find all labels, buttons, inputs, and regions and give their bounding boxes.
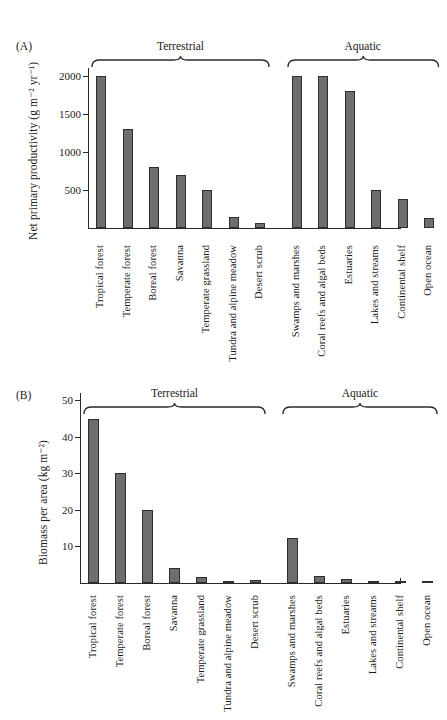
plot-a-y-tick-label: 1500: [59, 108, 81, 120]
plot-a-y-axis: [88, 68, 89, 228]
bar: [287, 538, 298, 583]
plot-a-y-tick-label: 1000: [59, 146, 81, 158]
panel-b-label: (B): [16, 389, 31, 401]
category-label: Temperate forest: [115, 595, 126, 667]
plot-b-y-tick-label: 30: [62, 467, 73, 479]
plot-b-y-axis: [80, 393, 81, 583]
category-label: Boreal forest: [142, 595, 153, 651]
bar: [229, 217, 239, 228]
category-label: Temperate grassland: [201, 245, 212, 333]
plot-b-y-tick: [75, 510, 80, 511]
plot-b-y-tick: [75, 473, 80, 474]
plot-a-y-tick-label: 500: [65, 184, 82, 196]
bar: [149, 167, 159, 228]
plot-b-y-tick-label: 20: [62, 504, 73, 516]
category-label: Coral reefs and algal beds: [317, 245, 328, 357]
group-label-aquatic: Aquatic: [342, 387, 378, 399]
group-label-aquatic: Aquatic: [345, 40, 381, 52]
bar: [142, 510, 153, 583]
group-label-terrestrial: Terrestrial: [157, 40, 204, 52]
category-label: Continental shelf: [397, 245, 408, 319]
plot-a-y-tick: [83, 152, 88, 153]
category-label: Tundra and alpine meadow: [228, 245, 239, 362]
category-label: Lakes and streams: [368, 595, 379, 674]
category-label: Coral reefs and algal beds: [314, 595, 325, 707]
chart-b-plot-area: 1020304050: [80, 393, 401, 583]
bar: [292, 76, 302, 228]
plot-b-y-tick: [75, 400, 80, 401]
category-label: Savanna: [169, 595, 180, 631]
plot-b-x-axis: [80, 583, 401, 584]
plot-b-y-tick-label: 10: [62, 540, 73, 552]
chart-a-plot-area: 500100015002000: [88, 68, 401, 228]
category-label: Open ocean: [423, 245, 434, 296]
bar: [341, 579, 352, 583]
plot-b-y-tick-label: 50: [62, 394, 73, 406]
category-label: Temperate grassland: [196, 595, 207, 683]
bar: [424, 218, 434, 228]
bar: [255, 223, 265, 228]
category-label: Desert scrub: [254, 245, 265, 299]
bar: [115, 473, 126, 583]
category-label: Continental shelf: [395, 595, 406, 669]
plot-b-y-tick: [75, 437, 80, 438]
category-label: Open ocean: [422, 595, 433, 646]
bar: [88, 419, 99, 583]
bar: [368, 581, 379, 583]
plot-b-y-tick-label: 40: [62, 431, 73, 443]
bar: [345, 91, 355, 228]
category-label: Estuaries: [341, 595, 352, 634]
chart-a-y-axis-title: Net primary productivity (g m⁻² yr⁻¹): [26, 60, 40, 240]
group-brace-aquatic: [282, 403, 438, 414]
group-brace-terrestrial: [91, 56, 270, 67]
panel-b-biomass-per-area: (B) Biomass per area (kg m⁻²) 1020304050…: [0, 365, 447, 720]
category-label: Tropical forest: [95, 245, 106, 308]
chart-b-y-axis-title: Biomass per area (kg m⁻²): [36, 405, 50, 565]
bar: [398, 199, 408, 228]
plot-b-y-tick: [75, 546, 80, 547]
category-label: Swamps and marshes: [287, 595, 298, 687]
bar: [96, 76, 106, 228]
bar: [318, 76, 328, 228]
bar: [395, 581, 406, 583]
plot-a-y-tick: [83, 76, 88, 77]
bar: [223, 581, 234, 583]
bar: [123, 129, 133, 228]
bar: [196, 577, 207, 583]
bar: [202, 190, 212, 228]
panel-a-net-primary-productivity: (A) Net primary productivity (g m⁻² yr⁻¹…: [0, 0, 447, 365]
group-label-terrestrial: Terrestrial: [151, 387, 198, 399]
category-label: Tropical forest: [88, 595, 99, 658]
category-label: Desert scrub: [250, 595, 261, 649]
panel-a-label: (A): [16, 40, 32, 52]
bar: [314, 576, 325, 583]
category-label: Savanna: [175, 245, 186, 281]
category-label: Swamps and marshes: [291, 245, 302, 337]
bar: [250, 580, 261, 583]
bar: [422, 581, 433, 583]
bar: [169, 568, 180, 583]
plot-a-y-tick-label: 2000: [59, 70, 81, 82]
category-label: Boreal forest: [148, 245, 159, 301]
category-label: Temperate forest: [122, 245, 133, 317]
category-label: Estuaries: [344, 245, 355, 284]
group-brace-aquatic: [287, 56, 440, 67]
plot-a-y-tick: [83, 190, 88, 191]
category-label: Tundra and alpine meadow: [223, 595, 234, 712]
group-brace-terrestrial: [83, 403, 266, 414]
category-label: Lakes and streams: [370, 245, 381, 324]
plot-a-y-tick: [83, 114, 88, 115]
bar: [176, 175, 186, 228]
bar: [371, 190, 381, 228]
plot-a-x-axis: [88, 228, 401, 229]
